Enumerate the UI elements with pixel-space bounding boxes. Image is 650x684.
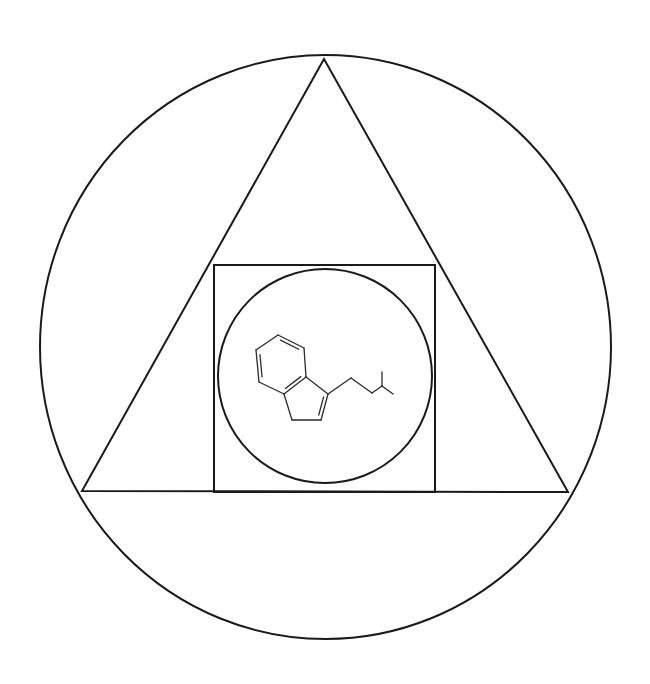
bond-line (256, 350, 259, 382)
bond-line (328, 378, 351, 394)
outer-circle (40, 55, 611, 639)
bond-line (284, 394, 292, 420)
triangle (82, 59, 568, 492)
bond-line (321, 394, 328, 420)
bond-line (304, 348, 306, 377)
molecule-structure (256, 335, 393, 420)
bond-line (284, 377, 306, 394)
bond-line (351, 378, 372, 393)
double-bond-line (260, 355, 262, 377)
nested-geometry-diagram (0, 0, 650, 684)
inner-circle (218, 269, 432, 483)
bond-line (259, 382, 284, 394)
square (214, 265, 435, 492)
bond-line (382, 386, 393, 394)
bond-line (306, 377, 328, 394)
bond-line (256, 335, 278, 350)
bond-line (372, 386, 382, 393)
